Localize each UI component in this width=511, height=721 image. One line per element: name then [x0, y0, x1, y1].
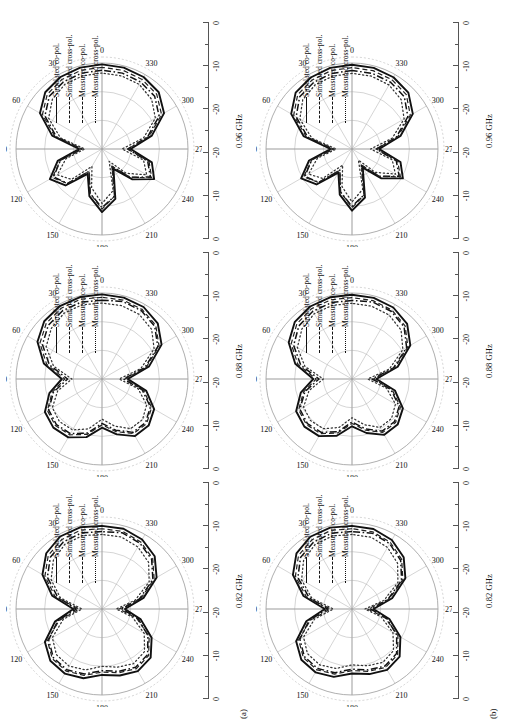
legend-label: Simulated co-pol. — [302, 503, 311, 557]
radial-tick-label: -20 — [212, 104, 221, 115]
legend-item-1: Simulated cross-pol. — [313, 19, 326, 123]
radial-tick-label: 0 — [212, 251, 221, 255]
radial-tick-label: 0 — [212, 21, 221, 25]
radial-tick-label: -20 — [462, 607, 471, 618]
svg-text:180: 180 — [96, 704, 108, 707]
radial-tick — [453, 108, 459, 109]
radial-minor-tick — [205, 676, 208, 677]
radial-minor-tick — [205, 446, 208, 447]
radial-tick — [203, 482, 209, 483]
radial-tick — [203, 195, 209, 196]
radial-tick-label: 0 — [212, 481, 221, 485]
panel-b-096: 0306090120150180210240270300330Simulated… — [256, 15, 506, 247]
radial-tick-label: -10 — [462, 291, 471, 302]
radial-minor-tick — [455, 317, 458, 318]
radial-tick-label: -10 — [212, 420, 221, 431]
radial-tick-label: -10 — [462, 61, 471, 72]
legend-label: Simulated co-pol. — [52, 43, 61, 97]
svg-text:330: 330 — [146, 519, 158, 528]
radial-minor-tick — [205, 633, 208, 634]
radial-tick-label: -10 — [212, 61, 221, 72]
radial-tick-label: -10 — [212, 650, 221, 661]
legend-swatch-solid — [302, 97, 311, 123]
svg-text:60: 60 — [262, 326, 270, 335]
radial-tick — [203, 425, 209, 426]
radial-axis-a-082: 0-10-20-20-100 — [202, 475, 228, 707]
svg-text:180: 180 — [346, 244, 358, 247]
radial-minor-tick — [455, 504, 458, 505]
legend-swatch-dotted — [341, 327, 350, 353]
svg-text:90: 90 — [256, 145, 257, 154]
radial-minor-tick — [455, 590, 458, 591]
radial-tick — [203, 655, 209, 656]
rotated-figure-canvas: (a) 0306090120150180210240270300330Simul… — [0, 0, 511, 721]
svg-text:180: 180 — [96, 474, 108, 477]
legend-label: Measured co-pol. — [78, 504, 87, 557]
polar-plot-a-088: 0306090120150180210240270300330Simulated… — [6, 245, 202, 477]
svg-text:60: 60 — [12, 556, 20, 565]
radial-tick — [453, 152, 459, 153]
radial-minor-tick — [205, 274, 208, 275]
radial-minor-tick — [205, 403, 208, 404]
svg-text:270: 270 — [445, 605, 452, 614]
legend-swatch-dashed — [78, 327, 87, 353]
legend-item-0: Simulated co-pol. — [50, 249, 63, 353]
legend: Simulated co-pol.Simulated cross-pol.Mea… — [50, 479, 102, 583]
radial-tick-label: -20 — [462, 147, 471, 158]
legend-label: Simulated cross-pol. — [65, 495, 74, 557]
svg-text:300: 300 — [182, 326, 194, 335]
svg-text:330: 330 — [396, 59, 408, 68]
legend-item-3: Measured cross-pol. — [89, 479, 102, 583]
svg-text:330: 330 — [146, 289, 158, 298]
legend-label: Simulated co-pol. — [302, 273, 311, 327]
legend-swatch-dotted — [91, 327, 100, 353]
radial-minor-tick — [205, 173, 208, 174]
radial-minor-tick — [455, 633, 458, 634]
legend: Simulated co-pol.Simulated cross-pol.Mea… — [300, 249, 352, 353]
legend-swatch-dash-dot — [315, 327, 324, 353]
radial-tick — [203, 382, 209, 383]
polar-plot-a-096: 0306090120150180210240270300330Simulated… — [6, 15, 202, 247]
radial-tick — [203, 698, 209, 699]
polar-plot-b-088: 0306090120150180210240270300330Simulated… — [256, 245, 452, 477]
figure-page: (a) 0306090120150180210240270300330Simul… — [0, 0, 511, 721]
radial-tick — [453, 698, 459, 699]
legend-swatch-dotted — [341, 557, 350, 583]
legend-label: Measured cross-pol. — [91, 35, 100, 97]
radial-minor-tick — [205, 87, 208, 88]
svg-text:270: 270 — [445, 145, 452, 154]
svg-text:150: 150 — [297, 691, 309, 700]
svg-text:150: 150 — [47, 691, 59, 700]
legend-swatch-dotted — [91, 557, 100, 583]
svg-text:240: 240 — [182, 425, 194, 434]
radial-tick-label: 0 — [212, 697, 221, 701]
radial-tick-label: -20 — [212, 147, 221, 158]
radial-tick-label: -10 — [212, 521, 221, 532]
radial-tick-label: 0 — [462, 697, 471, 701]
radial-tick — [453, 525, 459, 526]
legend-swatch-solid — [302, 557, 311, 583]
svg-text:90: 90 — [6, 375, 7, 384]
legend-swatch-solid — [52, 97, 61, 123]
svg-text:120: 120 — [10, 425, 22, 434]
radial-tick — [453, 295, 459, 296]
legend-label: Measured cross-pol. — [91, 495, 100, 557]
legend-item-1: Simulated cross-pol. — [63, 479, 76, 583]
svg-text:120: 120 — [260, 425, 272, 434]
radial-minor-tick — [455, 547, 458, 548]
radial-tick-label: -20 — [462, 104, 471, 115]
legend-item-1: Simulated cross-pol. — [63, 19, 76, 123]
radial-tick — [203, 22, 209, 23]
svg-text:150: 150 — [47, 231, 59, 240]
svg-text:270: 270 — [195, 375, 202, 384]
legend-item-2: Measured co-pol. — [326, 19, 339, 123]
legend-item-0: Simulated co-pol. — [300, 479, 313, 583]
radial-tick-label: -20 — [462, 334, 471, 345]
radial-tick-label: 0 — [212, 467, 221, 471]
legend-label: Simulated co-pol. — [302, 43, 311, 97]
legend-swatch-solid — [302, 327, 311, 353]
legend-swatch-dashed — [78, 557, 87, 583]
legend-item-0: Simulated co-pol. — [50, 19, 63, 123]
radial-tick-label: -10 — [462, 420, 471, 431]
svg-text:90: 90 — [6, 605, 7, 614]
